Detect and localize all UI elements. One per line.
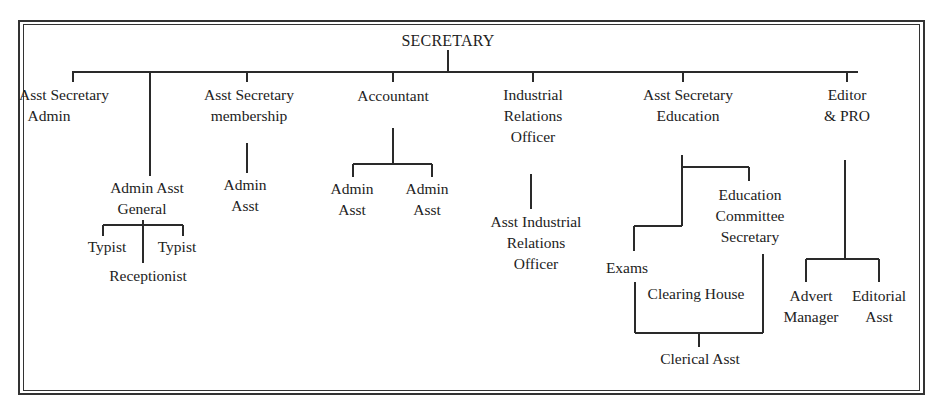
node-accountant-admin-asst-1: Admin Asst — [330, 178, 373, 220]
node-membership-admin-asst: Admin Asst — [223, 174, 266, 216]
node-clerical-asst: Clerical Asst — [660, 348, 740, 369]
node-receptionist: Receptionist — [109, 265, 187, 286]
node-asst-industrial-relations-officer: Asst Industrial Relations Officer — [491, 211, 582, 274]
node-education-committee-secretary: Education Committee Secretary — [716, 184, 785, 247]
node-industrial-relations-officer: Industrial Relations Officer — [503, 84, 562, 147]
node-typist-1: Typist — [88, 236, 127, 257]
node-advert-manager: Advert Manager — [783, 285, 838, 327]
node-exams: Exams — [606, 257, 648, 278]
node-asst-secretary-admin: Asst Secretary Admin — [19, 84, 109, 126]
node-asst-secretary-membership: Asst Secretary membership — [204, 84, 294, 126]
node-secretary: SECRETARY — [402, 30, 495, 51]
node-accountant: Accountant — [357, 85, 428, 106]
node-admin-asst-general: Admin Asst General — [110, 177, 184, 219]
node-editorial-asst: Editorial Asst — [852, 285, 906, 327]
node-accountant-admin-asst-2: Admin Asst — [405, 178, 448, 220]
node-clearing-house: Clearing House — [648, 283, 745, 304]
node-editor-pro: Editor & PRO — [824, 84, 870, 126]
node-typist-2: Typist — [158, 236, 197, 257]
node-asst-secretary-education: Asst Secretary Education — [643, 84, 733, 126]
